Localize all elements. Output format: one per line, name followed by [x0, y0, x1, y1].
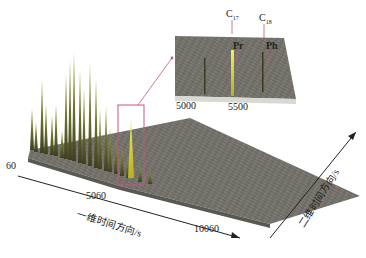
peak [34, 122, 38, 152]
inset-peak-c18 [262, 52, 264, 92]
peak [88, 62, 92, 166]
peak [50, 115, 54, 155]
x-axis-arrowhead [231, 232, 240, 238]
peak [44, 104, 48, 154]
peak [54, 104, 58, 156]
x-tick-5060: 5060 [86, 190, 106, 201]
pr-label: Pr [233, 40, 244, 51]
peak [30, 108, 34, 150]
peak [68, 60, 72, 160]
peak [82, 88, 86, 164]
inset-peak-c17 [204, 58, 206, 94]
ph-label: Ph [266, 40, 278, 51]
peak [64, 73, 68, 159]
inset-tick-5000: 5000 [176, 100, 196, 111]
peak [72, 51, 76, 161]
peak [40, 79, 44, 153]
peak [78, 69, 82, 163]
peak [94, 78, 98, 168]
x-tick-10060: 10060 [194, 223, 219, 234]
c17-label: C17 [226, 8, 239, 21]
inset-tick-5500: 5500 [228, 101, 248, 112]
zoom-connector-dot [171, 57, 174, 60]
x-tick-60: 60 [6, 160, 16, 171]
c18-label: C18 [259, 12, 272, 25]
chromatogram-figure: 60 5060 10060 一维时间方向/s 二维时间方向/s 5000 550… [0, 0, 366, 258]
inset-peak-pr [231, 50, 234, 96]
inset-panel [175, 20, 296, 104]
zoom-connector [138, 58, 172, 105]
y-axis-arrowhead [348, 132, 356, 140]
